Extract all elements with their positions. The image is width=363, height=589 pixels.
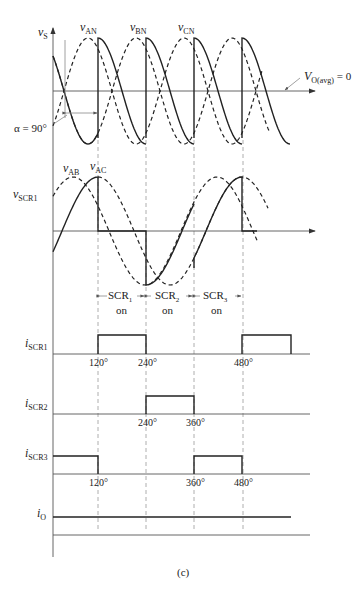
vscr1-label: vSCR1 [13, 187, 37, 203]
vbn-label: vBN [130, 20, 147, 36]
scr2-on-state: on [162, 304, 174, 316]
scr-waveform-diagram: vS vAN vBN vCN α = 90° VO(avg) = 0 vSCR1… [0, 0, 363, 589]
tick-label: 480° [234, 357, 253, 368]
phase-voltage-plot: vS vAN vBN vCN α = 90° VO(avg) = 0 [14, 20, 352, 144]
tick-label: 240° [138, 417, 157, 428]
conduction-intervals: SCR1 on SCR2 on SCR3 on [100, 289, 241, 316]
tick-label: 480° [234, 477, 253, 488]
scr3-on-state: on [211, 304, 223, 316]
vs-label: vS [38, 25, 48, 41]
tick-label: 120° [89, 357, 108, 368]
figure-caption: (c) [177, 566, 190, 579]
tick-label: 120° [89, 477, 108, 488]
iscr2-plot: iSCR2 240° 360° [25, 396, 310, 428]
vcn-label: vCN [178, 20, 195, 36]
alpha-label: α = 90° [14, 122, 47, 134]
scr3-on-label: SCR3 [203, 289, 228, 304]
scr1-on-state: on [116, 304, 128, 316]
van-label: vAN [80, 20, 97, 36]
tick-label: 360° [186, 477, 205, 488]
tick-label: 360° [186, 417, 205, 428]
tick-label: 240° [138, 357, 157, 368]
scr2-on-label: SCR2 [155, 289, 180, 304]
vab-label: vAB [63, 161, 79, 177]
iscr3-label: iSCR3 [25, 446, 47, 462]
vavg-leader [285, 78, 300, 90]
iscr1-plot: iSCR1 120° 240° 480° [25, 335, 310, 368]
iscr3-plot: iSCR3 120° 360° 480° [25, 446, 310, 488]
io-label: iO [37, 506, 46, 522]
scr1-on-label: SCR1 [108, 289, 133, 304]
vavg-label: VO(avg) = 0 [304, 69, 352, 85]
io-plot: iO [37, 506, 310, 535]
iscr1-label: iSCR1 [25, 336, 47, 352]
iscr2-label: iSCR2 [25, 396, 47, 412]
scr1-voltage-plot: vSCR1 vAB vAC SCR1 on SCR2 on SCR3 on [13, 159, 315, 316]
